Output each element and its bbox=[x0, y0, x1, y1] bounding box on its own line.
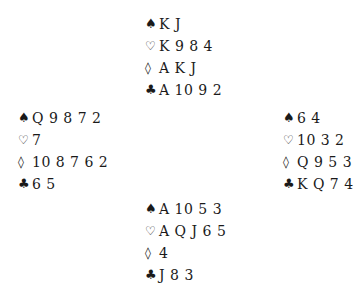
spade-icon: ♠ bbox=[145, 198, 159, 220]
west-diamonds: ◊10 8 7 6 2 bbox=[18, 151, 108, 173]
south-clubs-cards: J 8 3 bbox=[159, 264, 194, 286]
south-spades-cards: A 10 5 3 bbox=[159, 198, 222, 220]
south-hearts: ♡A Q J 6 5 bbox=[145, 220, 226, 242]
south-spades: ♠A 10 5 3 bbox=[145, 198, 226, 220]
south-clubs: ♣J 8 3 bbox=[145, 264, 226, 286]
east-clubs: ♣K Q 7 4 bbox=[283, 173, 354, 195]
diamond-icon: ◊ bbox=[145, 57, 159, 79]
west-spades-cards: Q 9 8 7 2 bbox=[32, 107, 101, 129]
north-hearts-cards: K 9 8 4 bbox=[159, 35, 213, 57]
south-hand: ♠A 10 5 3 ♡A Q J 6 5 ◊4 ♣J 8 3 bbox=[145, 198, 226, 286]
west-diamonds-cards: 10 8 7 6 2 bbox=[32, 151, 108, 173]
north-clubs: ♣A 10 9 2 bbox=[145, 79, 222, 101]
heart-icon: ♡ bbox=[18, 129, 32, 151]
west-hearts-cards: 7 bbox=[32, 129, 41, 151]
spade-icon: ♠ bbox=[283, 107, 297, 129]
east-clubs-cards: K Q 7 4 bbox=[297, 173, 354, 195]
east-spades-cards: 6 4 bbox=[297, 107, 321, 129]
south-diamonds: ◊4 bbox=[145, 242, 226, 264]
club-icon: ♣ bbox=[283, 173, 297, 195]
heart-icon: ♡ bbox=[283, 129, 297, 151]
club-icon: ♣ bbox=[145, 79, 159, 101]
club-icon: ♣ bbox=[145, 264, 159, 286]
heart-icon: ♡ bbox=[145, 220, 159, 242]
diamond-icon: ◊ bbox=[145, 242, 159, 264]
west-hand: ♠Q 9 8 7 2 ♡7 ◊10 8 7 6 2 ♣6 5 bbox=[18, 107, 108, 195]
west-spades: ♠Q 9 8 7 2 bbox=[18, 107, 108, 129]
west-clubs-cards: 6 5 bbox=[32, 173, 56, 195]
north-diamonds-cards: A K J bbox=[159, 57, 197, 79]
north-hearts: ♡K 9 8 4 bbox=[145, 35, 222, 57]
west-hearts: ♡7 bbox=[18, 129, 108, 151]
north-diamonds: ◊A K J bbox=[145, 57, 222, 79]
east-spades: ♠6 4 bbox=[283, 107, 354, 129]
spade-icon: ♠ bbox=[145, 13, 159, 35]
south-hearts-cards: A Q J 6 5 bbox=[159, 220, 226, 242]
diamond-icon: ◊ bbox=[283, 151, 297, 173]
diamond-icon: ◊ bbox=[18, 151, 32, 173]
north-spades: ♠K J bbox=[145, 13, 222, 35]
club-icon: ♣ bbox=[18, 173, 32, 195]
north-clubs-cards: A 10 9 2 bbox=[159, 79, 222, 101]
west-clubs: ♣6 5 bbox=[18, 173, 108, 195]
spade-icon: ♠ bbox=[18, 107, 32, 129]
east-hearts: ♡10 3 2 bbox=[283, 129, 354, 151]
east-hand: ♠6 4 ♡10 3 2 ◊Q 9 5 3 ♣K Q 7 4 bbox=[283, 107, 354, 195]
east-diamonds-cards: Q 9 5 3 bbox=[297, 151, 352, 173]
north-spades-cards: K J bbox=[159, 13, 181, 35]
east-diamonds: ◊Q 9 5 3 bbox=[283, 151, 354, 173]
north-hand: ♠K J ♡K 9 8 4 ◊A K J ♣A 10 9 2 bbox=[145, 13, 222, 101]
south-diamonds-cards: 4 bbox=[159, 242, 168, 264]
heart-icon: ♡ bbox=[145, 35, 159, 57]
east-hearts-cards: 10 3 2 bbox=[297, 129, 345, 151]
